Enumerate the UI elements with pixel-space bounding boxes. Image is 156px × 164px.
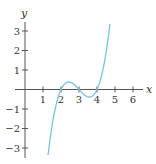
x-tick-label: 4 [94, 94, 100, 105]
x-tick-label: 1 [40, 94, 46, 105]
y-tick-label: 3 [14, 26, 20, 37]
y-tick-label: 1 [14, 65, 20, 76]
x-axis-title: x [146, 83, 153, 96]
y-tick-label: 2 [14, 45, 20, 56]
x-tick-label: 6 [130, 94, 136, 105]
y-tick-label: −3 [5, 143, 20, 154]
cubic-function-chart: 123456−3−2−1123 x y [0, 0, 156, 164]
y-tick-label: −2 [5, 123, 20, 134]
x-tick-label: 3 [76, 94, 82, 105]
y-axis-title: y [20, 7, 28, 20]
x-tick-label: 5 [112, 94, 118, 105]
y-tick-label: −1 [5, 104, 20, 115]
